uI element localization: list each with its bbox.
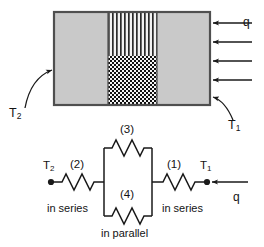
connection-label-right-series: in series (162, 203, 203, 214)
wall-middle-bottom-checkered-section (108, 56, 157, 105)
network-label-t1: T1 (200, 160, 211, 172)
network-label-t2: T2 (43, 160, 54, 172)
wall-label-t1: T1 (228, 119, 240, 132)
resistor-1-symbol (152, 174, 205, 190)
wall-label-t2: T2 (9, 107, 21, 120)
heat-transfer-figure: T2 T1 q T2 T1 (2) (3) (4) (1) q in serie… (0, 0, 264, 247)
resistor-2-label: (2) (70, 159, 84, 171)
resistor-1-label: (1) (167, 159, 181, 171)
resistor-4-label: (4) (120, 189, 134, 201)
resistor-4-symbol (104, 208, 152, 224)
connection-label-left-series: in series (47, 203, 88, 214)
resistor-3-label: (3) (120, 124, 134, 136)
wall-middle-top-striped-section (108, 12, 157, 56)
heat-flux-arrow-group (213, 23, 252, 80)
wall-right-section (157, 12, 210, 105)
resistor-3-symbol (104, 140, 152, 156)
wall-label-heat-flux: q (243, 16, 250, 28)
resistor-2-symbol (51, 174, 104, 190)
composite-wall-group (25, 12, 252, 120)
connection-label-parallel: in parallel (101, 228, 148, 239)
network-label-heat-flux: q (233, 191, 240, 203)
t1-leader-arrow (213, 97, 233, 120)
wall-left-section (54, 12, 108, 105)
node-dot-t1 (204, 179, 210, 185)
t2-leader-arrow (25, 70, 52, 108)
